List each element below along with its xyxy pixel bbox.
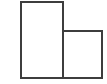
figure-canvas: [0, 0, 107, 84]
l-shape-drawing: [0, 0, 107, 84]
tall-rectangle: [21, 2, 63, 78]
short-rectangle: [63, 31, 102, 78]
